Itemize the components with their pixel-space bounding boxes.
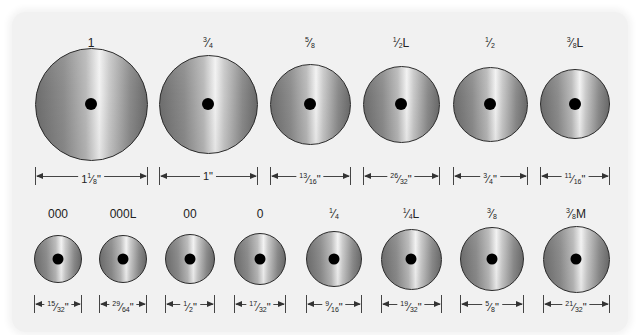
dimension-tick: [285, 295, 286, 313]
arbor-hole-icon: [329, 254, 340, 265]
diameter-measurement: 21⁄32": [562, 297, 589, 317]
grinding-wheel-icon: [270, 64, 351, 145]
arrow-left-icon: [307, 301, 314, 307]
grinding-wheel-icon: [306, 231, 362, 287]
dimension-tick: [439, 167, 440, 185]
grinding-wheel-icon: [99, 235, 147, 283]
wheel-size-label: 3⁄8M: [566, 207, 586, 221]
diameter-measurement: 9⁄16": [322, 297, 345, 317]
arrow-left-icon: [35, 301, 42, 307]
grinding-wheel-icon: [165, 234, 215, 284]
wheel-size-label: 1⁄4L: [403, 207, 420, 221]
arrow-right-icon: [602, 301, 609, 307]
wheel-size-label: 1⁄2: [485, 36, 495, 50]
diameter-measurement: 29⁄64": [109, 297, 136, 317]
arrow-left-icon: [454, 173, 461, 179]
dimension-tick: [527, 167, 528, 185]
arrow-right-icon: [434, 301, 441, 307]
diameter-dimension-line: 13⁄16": [270, 167, 351, 185]
grinding-wheel-icon: [35, 48, 148, 161]
arbor-hole-icon: [406, 254, 417, 265]
diameter-dimension-line: 19⁄32": [381, 295, 442, 313]
diameter-dimension-line: 1": [159, 167, 258, 185]
arbor-hole-icon: [85, 98, 97, 110]
diameter-dimension-line: 5⁄8": [460, 295, 524, 313]
arbor-hole-icon: [304, 98, 316, 110]
arbor-hole-icon: [202, 98, 214, 110]
dimension-tick: [609, 295, 610, 313]
arrow-left-icon: [382, 301, 389, 307]
arrow-right-icon: [278, 301, 285, 307]
arrow-left-icon: [544, 301, 551, 307]
arrow-left-icon: [461, 301, 468, 307]
arrow-right-icon: [139, 301, 146, 307]
diameter-dimension-line: 21⁄32": [543, 295, 610, 313]
grinding-wheel-icon: [34, 235, 82, 283]
wheel-size-label: 5⁄8: [305, 36, 315, 50]
arbor-hole-icon: [569, 98, 581, 110]
arrow-left-icon: [364, 173, 371, 179]
grinding-wheel-icon: [453, 67, 528, 142]
diameter-dimension-line: 11⁄8": [35, 167, 148, 185]
arbor-hole-icon: [571, 254, 582, 265]
grinding-wheel-icon: [159, 55, 258, 154]
arrow-right-icon: [602, 173, 609, 179]
grinding-wheel-icon: [543, 226, 610, 293]
arbor-hole-icon: [255, 254, 266, 265]
arrow-right-icon: [354, 301, 361, 307]
dimension-tick: [523, 295, 524, 313]
dimension-tick: [81, 295, 82, 313]
diameter-measurement: 3⁄4": [480, 169, 500, 189]
arrow-right-icon: [74, 301, 81, 307]
dimension-tick: [257, 167, 258, 185]
diameter-measurement: 17⁄32": [246, 297, 273, 317]
arrow-right-icon: [207, 301, 214, 307]
arrow-left-icon: [271, 173, 278, 179]
dimension-tick: [350, 167, 351, 185]
arrow-left-icon: [160, 173, 167, 179]
diameter-dimension-line: 26⁄32": [363, 167, 440, 185]
wheel-size-label: 000: [48, 207, 68, 221]
diameter-measurement: 1": [200, 169, 216, 183]
diameter-measurement: 15⁄32": [44, 297, 71, 317]
arbor-hole-icon: [118, 254, 129, 265]
diameter-dimension-line: 29⁄64": [99, 295, 147, 313]
diameter-measurement: 11⁄8": [78, 169, 104, 189]
arrow-right-icon: [432, 173, 439, 179]
arbor-hole-icon: [484, 98, 496, 110]
arrow-left-icon: [541, 173, 548, 179]
dimension-tick: [441, 295, 442, 313]
wheel-size-label: 3⁄8L: [567, 36, 584, 50]
dimension-tick: [609, 167, 610, 185]
diameter-measurement: 1⁄2": [180, 297, 200, 317]
grinding-wheel-icon: [234, 233, 286, 285]
arbor-hole-icon: [487, 254, 498, 265]
diameter-measurement: 13⁄16": [296, 169, 323, 189]
arrow-right-icon: [343, 173, 350, 179]
diameter-measurement: 26⁄32": [387, 169, 414, 189]
wheel-size-label: 0: [257, 207, 264, 221]
diameter-measurement: 5⁄8": [482, 297, 502, 317]
diameter-dimension-line: 3⁄4": [453, 167, 528, 185]
diameter-dimension-line: 15⁄32": [34, 295, 82, 313]
arrow-left-icon: [100, 301, 107, 307]
diameter-measurement: 19⁄32": [397, 297, 424, 317]
grinding-wheel-icon: [540, 69, 610, 139]
dimension-tick: [147, 167, 148, 185]
arrow-right-icon: [250, 173, 257, 179]
diameter-dimension-line: 1⁄2": [165, 295, 215, 313]
wheel-size-label: 1⁄2L: [393, 36, 410, 50]
arrow-right-icon: [520, 173, 527, 179]
wheel-size-label: 3⁄8: [487, 207, 497, 221]
arbor-hole-icon: [395, 98, 407, 110]
arrow-right-icon: [516, 301, 523, 307]
dimension-tick: [361, 295, 362, 313]
arrow-right-icon: [140, 173, 147, 179]
grinding-wheel-icon: [381, 229, 442, 290]
wheel-size-label: 3⁄4: [203, 36, 213, 50]
diameter-dimension-line: 9⁄16": [306, 295, 362, 313]
arbor-hole-icon: [53, 254, 64, 265]
arrow-left-icon: [36, 173, 43, 179]
wheel-size-label: 1⁄4: [329, 207, 339, 221]
grinding-wheel-icon: [363, 66, 440, 143]
